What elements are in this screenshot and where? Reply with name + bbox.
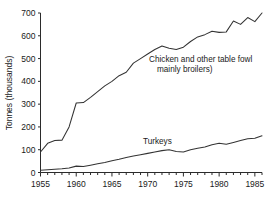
chicken-label-line-1: Chicken and other table fowl bbox=[149, 55, 252, 64]
chicken-label-line-2: mainly broilers) bbox=[157, 65, 213, 74]
y-tick-label-0: 0 bbox=[31, 168, 36, 178]
y-tick-label-600: 600 bbox=[21, 31, 35, 41]
y-axis-title-text: Tonnes (thousands) bbox=[4, 56, 14, 131]
turkeys-series-annotation: Turkeys bbox=[143, 137, 172, 146]
y-tick-label-500: 500 bbox=[21, 54, 35, 64]
x-tick-label-1960: 1960 bbox=[67, 179, 86, 189]
y-tick-label-400: 400 bbox=[21, 76, 35, 86]
poultry-production-line-chart: 0100200300400500600700 19551960196519701… bbox=[0, 0, 269, 198]
turkeys-label-line-1: Turkeys bbox=[143, 137, 172, 146]
chart-canvas: 0100200300400500600700 19551960196519701… bbox=[0, 0, 269, 198]
x-tick-label-1965: 1965 bbox=[102, 179, 121, 189]
y-tick-label-100: 100 bbox=[21, 145, 35, 155]
y-tick-label-700: 700 bbox=[21, 8, 35, 18]
x-tick-label-1970: 1970 bbox=[138, 179, 157, 189]
y-tick-label-300: 300 bbox=[21, 99, 35, 109]
x-tick-label-1980: 1980 bbox=[210, 179, 229, 189]
x-tick-label-1955: 1955 bbox=[31, 179, 50, 189]
y-axis-title: Tonnes (thousands) bbox=[4, 56, 14, 131]
x-tick-label-1985: 1985 bbox=[245, 179, 264, 189]
x-tick-label-1975: 1975 bbox=[174, 179, 193, 189]
y-tick-label-200: 200 bbox=[21, 122, 35, 132]
